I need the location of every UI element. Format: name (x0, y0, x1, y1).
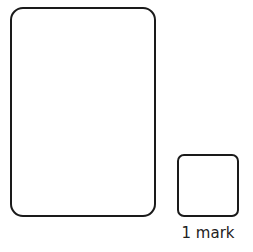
marks-label: 1 mark (170, 224, 246, 242)
working-box[interactable] (10, 7, 156, 217)
answer-box[interactable] (177, 154, 239, 217)
